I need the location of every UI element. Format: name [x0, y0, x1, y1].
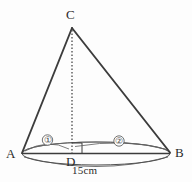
vertex-label-B: B [175, 146, 184, 159]
dimension-label-base-diameter: 15cm [72, 165, 97, 176]
slant-edge-CB [72, 28, 170, 153]
vertex-label-A: A [6, 147, 15, 160]
figure-canvas [0, 0, 192, 182]
cone-geometry-figure: C A B D ① ② 15cm [0, 0, 192, 182]
segment-label-one: ① [44, 136, 52, 145]
vertex-label-C: C [66, 8, 75, 21]
segment-label-two: ② [115, 137, 123, 146]
right-angle-marker [72, 143, 82, 154]
